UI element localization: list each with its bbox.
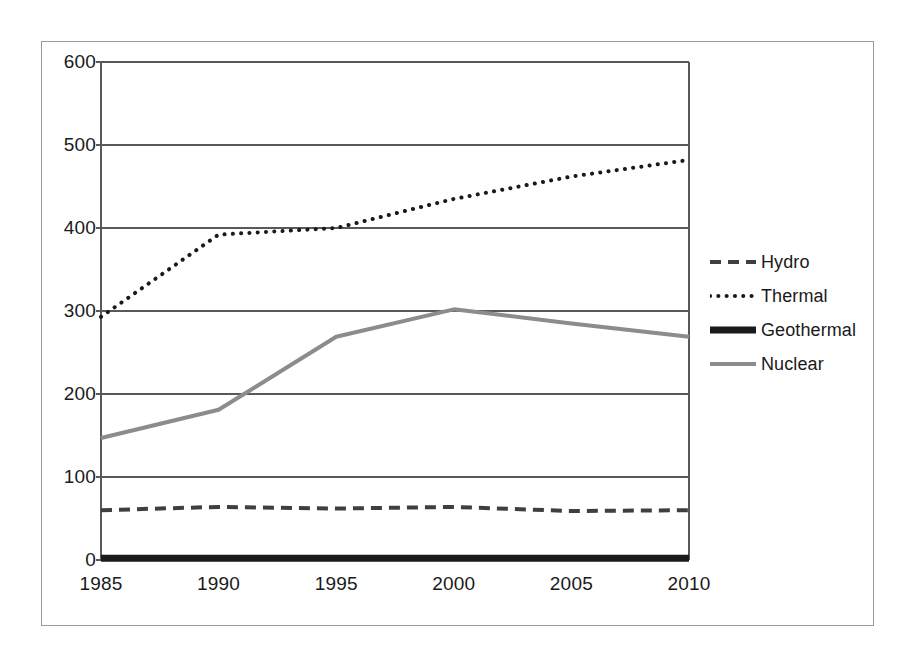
legend-label: Nuclear bbox=[761, 355, 824, 373]
legend-swatch-nuclear-icon bbox=[710, 357, 756, 371]
x-axis-tick-label: 1995 bbox=[291, 574, 381, 593]
legend-item-thermal[interactable]: Thermal bbox=[710, 279, 870, 313]
legend-label: Geothermal bbox=[761, 321, 856, 339]
x-axis-tick-label: 2005 bbox=[526, 574, 616, 593]
legend-swatch-thermal-icon bbox=[710, 289, 756, 303]
legend-item-hydro[interactable]: Hydro bbox=[710, 245, 870, 279]
chart-figure: 6005004003002001000 19851990199520002005… bbox=[41, 41, 874, 626]
legend-swatch-hydro-icon bbox=[710, 255, 756, 269]
legend-swatch-geothermal-icon bbox=[710, 323, 756, 337]
legend-label: Thermal bbox=[761, 287, 828, 305]
legend-item-geothermal[interactable]: Geothermal bbox=[710, 313, 870, 347]
chart-legend: HydroThermalGeothermalNuclear bbox=[710, 245, 870, 381]
x-axis-tick-label: 1990 bbox=[174, 574, 264, 593]
legend-item-nuclear[interactable]: Nuclear bbox=[710, 347, 870, 381]
x-axis-tick-label: 1985 bbox=[56, 574, 146, 593]
legend-label: Hydro bbox=[761, 253, 810, 271]
x-axis-tick-label: 2010 bbox=[644, 574, 734, 593]
x-axis-tick-label: 2000 bbox=[409, 574, 499, 593]
